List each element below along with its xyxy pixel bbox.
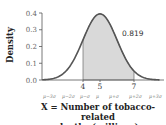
- svg-text:0.4: 0.4: [26, 10, 38, 18]
- probability-annotation: 0.819: [122, 29, 144, 38]
- svg-text:0.3: 0.3: [26, 26, 37, 34]
- x-axis-title: X = Number of tobacco-related deaths (mi…: [30, 102, 166, 125]
- svg-text:0.2: 0.2: [26, 43, 37, 51]
- x-axis-title-line2: deaths (millions): [30, 122, 166, 125]
- y-axis: 0.00.10.20.30.4: [26, 10, 42, 85]
- svg-text:μ−3σ: μ−3σ: [43, 94, 57, 99]
- svg-text:0.0: 0.0: [26, 77, 37, 85]
- svg-text:0.1: 0.1: [26, 60, 37, 68]
- svg-text:μ+3σ: μ+3σ: [149, 94, 163, 99]
- svg-text:μ−2σ: μ−2σ: [62, 94, 76, 99]
- svg-text:7: 7: [132, 82, 137, 91]
- svg-text:μ: μ: [96, 94, 99, 99]
- svg-text:μ+2σ: μ+2σ: [129, 94, 143, 99]
- svg-text:μ−σ: μ−σ: [80, 94, 91, 99]
- svg-text:μ+σ: μ+σ: [109, 94, 120, 99]
- svg-text:5: 5: [98, 82, 103, 91]
- y-axis-label: Density: [2, 26, 16, 66]
- svg-text:4: 4: [81, 82, 86, 91]
- x-axis-title-line1: X = Number of tobacco-related: [30, 102, 166, 122]
- x-axis: 457μ−3σμ−2σμ−σμμ+σμ+2σμ+3σ: [42, 80, 164, 99]
